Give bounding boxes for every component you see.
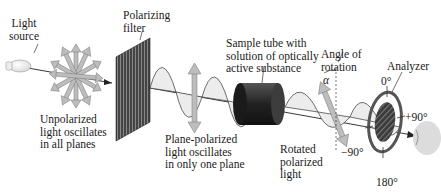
eye-icon (413, 121, 441, 155)
plane-polarized-caption-line-1: Plane-polarized (165, 133, 245, 146)
alpha-symbol: α (323, 74, 329, 87)
light-source-label: Light source (9, 17, 39, 42)
sample-tube-label-line-2: solution of optically (226, 50, 319, 63)
unpolarized-caption: Unpolarized light oscillates in all plan… (40, 113, 107, 151)
rotated-light-caption-line-3: light (280, 168, 323, 181)
analyzer-scale-0: 0° (381, 75, 391, 88)
unpolarized-caption-line-3: in all planes (40, 138, 107, 151)
angle-of-rotation-label: Angle of rotation (321, 48, 362, 73)
analyzer-scale-minus-90: −90° (341, 146, 364, 159)
polarizing-filter-label-line-1: Polarizing (123, 9, 170, 22)
sample-tube-label: Sample tube with solution of optically a… (226, 37, 319, 75)
analyzer-label: Analyzer (387, 60, 429, 73)
light-source-label-line-2: source (9, 30, 39, 43)
sample-tube-label-line-3: active substance (226, 62, 319, 75)
polarizing-filter-icon (116, 32, 150, 141)
sample-tube-icon (233, 66, 285, 125)
rotated-light-caption-line-2: polarized (280, 156, 323, 169)
polarizing-filter-label-line-2: filter (123, 22, 170, 35)
light-source-bulb-icon (6, 44, 38, 72)
plane-polarized-caption-line-2: light oscillates (165, 146, 245, 159)
rotated-light-caption: Rotated polarized light (280, 143, 323, 181)
sample-tube-label-line-1: Sample tube with (226, 37, 319, 50)
polarizing-filter-label: Polarizing filter (123, 9, 170, 34)
unpolarized-caption-line-2: light oscillates (40, 126, 107, 139)
light-source-label-line-1: Light (9, 17, 39, 30)
analyzer-scale-180: 180° (376, 176, 398, 189)
angle-of-rotation-label-line-2: rotation (321, 61, 362, 74)
plane-polarized-caption: Plane-polarized light oscillates in only… (165, 133, 245, 171)
unpolarized-caption-line-1: Unpolarized (40, 113, 107, 126)
rotated-light-caption-line-1: Rotated (280, 143, 323, 156)
analyzer-scale-plus-90: +90° (405, 111, 428, 124)
angle-of-rotation-label-line-1: Angle of (321, 48, 362, 61)
plane-polarized-caption-line-3: in only one plane (165, 158, 245, 171)
unpolarized-light-arrows-icon (48, 44, 103, 108)
